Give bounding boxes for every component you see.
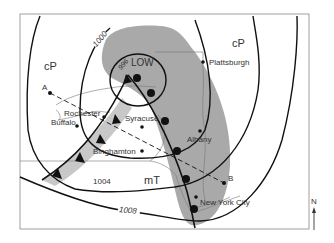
warm-front-semicircle — [147, 89, 155, 97]
point-a-marker — [48, 91, 52, 95]
city-label: New York City — [200, 198, 250, 207]
warm-front-semicircle — [190, 205, 198, 213]
air-mass-cp-east: cP — [232, 37, 245, 49]
weather-map: A B 1000 996 1004 1008 LOW cP cP mT Plat… — [0, 0, 334, 243]
point-b-label: B — [228, 174, 233, 183]
air-mass-cp-west: cP — [44, 60, 57, 72]
isobar-label-1008: 1008 — [119, 205, 138, 216]
city-plattsburgh: Plattsburgh — [201, 58, 249, 67]
isobar-label-1004: 1004 — [93, 177, 111, 186]
north-arrow: N — [311, 197, 317, 230]
city-label: Albany — [187, 135, 211, 144]
city-buffalo: Buffalo — [51, 118, 79, 128]
low-pressure-label: LOW — [131, 57, 154, 68]
air-mass-mt: mT — [144, 174, 160, 186]
warm-front-semicircle — [161, 117, 169, 125]
warm-front-semicircle — [133, 74, 141, 82]
warm-front-semicircle — [173, 147, 181, 155]
city-label: Plattsburgh — [209, 58, 249, 67]
city-label: Syracuse — [125, 114, 159, 123]
city-label: Binghamton — [93, 147, 136, 156]
point-a-label: A — [42, 83, 48, 92]
north-arrow-label: N — [311, 197, 317, 206]
city-label: Rochester — [64, 109, 101, 118]
north-arrowhead-icon — [312, 207, 316, 213]
point-b-marker — [222, 181, 226, 185]
warm-front-semicircle — [182, 175, 190, 183]
city-label: Buffalo — [51, 118, 76, 127]
